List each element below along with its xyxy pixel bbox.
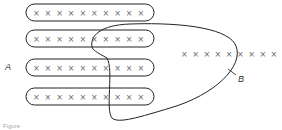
cross-mark: × bbox=[114, 35, 121, 44]
cross-mark: × bbox=[137, 9, 144, 18]
cross-mark: × bbox=[103, 93, 110, 102]
cross-mark: × bbox=[103, 35, 110, 44]
cross-mark: × bbox=[203, 50, 210, 59]
cross-mark: × bbox=[45, 9, 52, 18]
cross-mark: × bbox=[79, 9, 86, 18]
caption: Figure bbox=[3, 123, 21, 129]
cross-mark: × bbox=[68, 9, 75, 18]
cross-mark: × bbox=[271, 50, 278, 59]
cross-mark: × bbox=[68, 93, 75, 102]
cross-mark: × bbox=[56, 93, 63, 102]
cross-mark: × bbox=[33, 9, 40, 18]
cross-mark: × bbox=[126, 9, 133, 18]
row-capsules bbox=[26, 4, 154, 105]
cross-mark: × bbox=[126, 35, 133, 44]
cross-mark: × bbox=[114, 9, 121, 18]
cross-mark: × bbox=[237, 50, 244, 59]
b-leader-line bbox=[228, 69, 236, 75]
cross-mark: × bbox=[226, 50, 233, 59]
cross-mark: × bbox=[56, 9, 63, 18]
label-a: A bbox=[4, 62, 11, 72]
cross-mark: × bbox=[114, 93, 121, 102]
cross-mark: × bbox=[248, 50, 255, 59]
cross-mark: × bbox=[91, 93, 98, 102]
set-diagram: A B ××××××××××××××××××××××××××××××××××××… bbox=[0, 0, 282, 130]
cross-mark: × bbox=[192, 50, 199, 59]
cross-mark: × bbox=[91, 35, 98, 44]
cross-mark: × bbox=[215, 50, 222, 59]
label-b: B bbox=[238, 74, 244, 84]
cross-mark: × bbox=[181, 50, 188, 59]
cross-mark: × bbox=[126, 93, 133, 102]
cross-mark: × bbox=[137, 93, 144, 102]
cross-mark: × bbox=[259, 50, 266, 59]
cross-mark: × bbox=[45, 35, 52, 44]
cross-mark: × bbox=[103, 9, 110, 18]
cross-mark: × bbox=[137, 64, 144, 73]
cross-mark: × bbox=[45, 93, 52, 102]
cross-mark: × bbox=[68, 35, 75, 44]
cross-mark: × bbox=[137, 35, 144, 44]
cross-mark: × bbox=[68, 64, 75, 73]
cross-mark: × bbox=[33, 64, 40, 73]
cross-mark: × bbox=[126, 64, 133, 73]
cross-mark: × bbox=[79, 64, 86, 73]
cross-mark: × bbox=[56, 64, 63, 73]
cross-mark: × bbox=[114, 64, 121, 73]
cross-mark: × bbox=[33, 35, 40, 44]
cross-mark: × bbox=[79, 35, 86, 44]
cross-mark: × bbox=[45, 64, 52, 73]
cross-mark: × bbox=[103, 64, 110, 73]
cross-mark: × bbox=[56, 35, 63, 44]
cross-mark: × bbox=[33, 93, 40, 102]
cross-mark: × bbox=[91, 9, 98, 18]
cross-mark: × bbox=[79, 93, 86, 102]
cross-mark: × bbox=[91, 64, 98, 73]
